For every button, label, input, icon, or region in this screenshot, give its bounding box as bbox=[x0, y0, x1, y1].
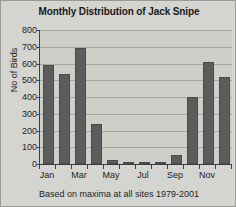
x-axis-tick-label: Nov bbox=[192, 170, 222, 180]
x-axis-tick-label: Jan bbox=[32, 170, 62, 180]
y-axis-tick-label: 700 bbox=[15, 42, 37, 52]
bar bbox=[75, 48, 86, 164]
y-axis-tick-label: 500 bbox=[15, 75, 37, 85]
bar bbox=[107, 160, 118, 164]
bar bbox=[123, 162, 134, 164]
x-axis-tick-mark bbox=[199, 165, 200, 169]
bar bbox=[171, 155, 182, 164]
x-axis-tick-mark bbox=[39, 165, 40, 169]
x-axis-tick-marks bbox=[39, 165, 231, 169]
bar bbox=[187, 97, 198, 164]
bar bbox=[139, 162, 150, 164]
bar bbox=[219, 77, 230, 164]
x-axis-tick-label: Jul bbox=[128, 170, 158, 180]
x-axis-tick-mark bbox=[167, 165, 168, 169]
x-axis-tick-mark bbox=[151, 165, 152, 169]
bar bbox=[91, 124, 102, 164]
x-axis-tick-label: May bbox=[96, 170, 126, 180]
x-axis-tick-mark bbox=[215, 165, 216, 169]
y-axis-tick-label: 600 bbox=[15, 59, 37, 69]
bar-series bbox=[40, 30, 232, 164]
chart-figure: Monthly Distribution of Jack Snipe No of… bbox=[0, 0, 236, 207]
chart-title: Monthly Distribution of Jack Snipe bbox=[1, 6, 236, 17]
x-axis-tick-mark bbox=[103, 165, 104, 169]
y-axis-tick-label: 400 bbox=[15, 92, 37, 102]
y-axis-tick-label: 0 bbox=[15, 159, 37, 169]
x-axis-tick-mark bbox=[55, 165, 56, 169]
plot-area bbox=[39, 30, 232, 165]
y-axis-tick-labels: 8007006005004003002001000 bbox=[15, 25, 37, 169]
y-axis-tick-label: 800 bbox=[15, 25, 37, 35]
x-axis-tick-mark bbox=[87, 165, 88, 169]
x-axis-tick-mark bbox=[135, 165, 136, 169]
bar bbox=[59, 74, 70, 164]
x-axis-tick-label: Mar bbox=[64, 170, 94, 180]
x-axis-tick-labels: JanMarMayJulSepNov bbox=[39, 170, 231, 184]
bar bbox=[203, 62, 214, 164]
y-axis-tick-label: 300 bbox=[15, 109, 37, 119]
x-axis-tick-mark bbox=[71, 165, 72, 169]
bar bbox=[155, 162, 166, 164]
y-axis-tick-label: 200 bbox=[15, 126, 37, 136]
x-axis-tick-mark bbox=[119, 165, 120, 169]
y-axis-tick-label: 100 bbox=[15, 142, 37, 152]
x-axis-tick-mark bbox=[183, 165, 184, 169]
bar bbox=[43, 65, 54, 164]
x-axis-tick-mark bbox=[231, 165, 232, 169]
x-axis-tick-label: Sep bbox=[160, 170, 190, 180]
chart-caption: Based on maxima at all sites 1979-2001 bbox=[1, 189, 236, 199]
